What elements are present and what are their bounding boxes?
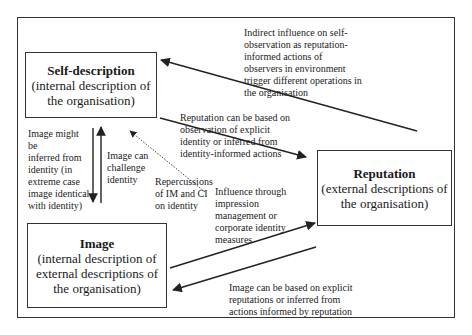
edge-label-image-based: Image can be based on explicit reputatio… — [229, 282, 389, 318]
node-title: Reputation — [353, 166, 415, 181]
edge-label-image-challenge: Image can challenge identity — [107, 150, 157, 186]
node-self-description: Self-description (internal description o… — [25, 52, 157, 118]
node-description: (external descriptions of the organisati… — [318, 181, 451, 211]
node-image: Image (internal description of external … — [27, 223, 167, 308]
node-reputation: Reputation (external descriptions of the… — [317, 150, 452, 226]
edge-label-image-inferred: Image might be inferred from identity (i… — [28, 128, 90, 212]
edge-label-repercussions: Repercussions of IM and CI on identity — [155, 176, 217, 212]
node-title: Self-description — [47, 63, 134, 78]
node-description: (internal description of external descri… — [28, 251, 166, 296]
node-title: Image — [80, 236, 115, 251]
edge-label-reputation-based: Reputation can be based on observation o… — [180, 112, 310, 160]
edge-label-influence-through: Influence through impression management … — [215, 186, 305, 246]
edge-label-indirect-influence: Indirect influence on self- observation … — [244, 27, 394, 99]
node-description: (internal description of the organisatio… — [26, 78, 156, 108]
